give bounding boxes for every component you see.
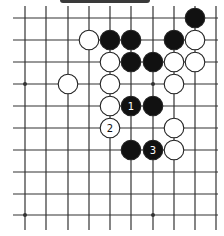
white-stone[interactable] bbox=[79, 30, 99, 50]
black-stone[interactable] bbox=[143, 52, 163, 72]
black-stone[interactable] bbox=[185, 8, 205, 28]
white-stone[interactable] bbox=[185, 30, 205, 50]
black-stone[interactable] bbox=[143, 96, 163, 116]
white-stone[interactable] bbox=[100, 52, 120, 72]
black-stone[interactable] bbox=[164, 30, 184, 50]
black-stone[interactable]: 3 bbox=[143, 140, 163, 160]
go-board[interactable]: 123 bbox=[0, 0, 224, 236]
white-stone[interactable] bbox=[164, 118, 184, 138]
move-number-label: 1 bbox=[128, 101, 134, 112]
white-stone[interactable] bbox=[100, 74, 120, 94]
white-stone[interactable] bbox=[164, 74, 184, 94]
white-stone[interactable] bbox=[164, 52, 184, 72]
black-stone[interactable] bbox=[121, 30, 141, 50]
star-point bbox=[23, 82, 27, 86]
move-number-label: 3 bbox=[150, 145, 156, 156]
white-stone[interactable] bbox=[58, 74, 78, 94]
white-stone[interactable]: 2 bbox=[100, 118, 120, 138]
black-stone[interactable]: 1 bbox=[121, 96, 141, 116]
white-stone[interactable] bbox=[164, 140, 184, 160]
move-number-label: 2 bbox=[107, 123, 113, 134]
black-stone[interactable] bbox=[100, 30, 120, 50]
white-stone[interactable] bbox=[185, 52, 205, 72]
black-stone[interactable] bbox=[121, 140, 141, 160]
white-stone[interactable] bbox=[100, 96, 120, 116]
star-point bbox=[151, 213, 155, 217]
star-point bbox=[23, 213, 27, 217]
star-point bbox=[151, 82, 155, 86]
black-stone[interactable] bbox=[121, 52, 141, 72]
